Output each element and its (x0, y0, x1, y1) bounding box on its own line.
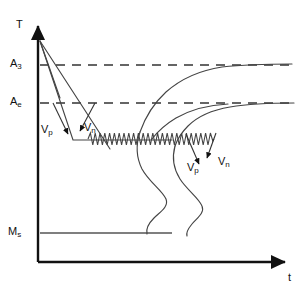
isothermal-hold-zigzag (88, 133, 214, 145)
ae-label-sub: e (17, 100, 21, 109)
a3-label-sub: 3 (17, 62, 21, 71)
ms-label-sub: s (17, 230, 21, 239)
vp-lower-sub: p (194, 166, 198, 175)
vp-upper-sub: p (48, 128, 52, 137)
ms-temperature-label: Ms (8, 226, 21, 237)
zigzag-polyline (88, 133, 214, 145)
c-curve-start-ae-crossing (152, 104, 228, 139)
c-curve-finish-lower-branch (173, 146, 202, 236)
ttt-c-curves (137, 64, 294, 236)
cooling-path-vp-continuation (40, 41, 60, 98)
ttt-diagram-canvas (0, 0, 306, 299)
a3-temperature-label: A3 (10, 58, 22, 69)
c-curve-start-upper-branch (140, 64, 292, 132)
vn-lower-sub: n (225, 160, 229, 169)
ttt-diagram-figure: T t A3 Ae Ms Vp Vn Vp Vn (0, 0, 306, 299)
vn-upper-label: Vn (84, 122, 96, 133)
ae-temperature-label: Ae (10, 96, 22, 107)
cooling-paths (40, 41, 172, 149)
vn-lower-label: Vn (218, 156, 230, 167)
x-axis-label: t (288, 272, 291, 283)
axes-group (38, 26, 285, 262)
y-axis-label: T (16, 19, 23, 30)
cooling-path-vp (40, 41, 172, 140)
vp-lower-label: Vp (187, 162, 199, 173)
vp-upper-label: Vp (41, 124, 53, 135)
c-curve-start-lower-branch (137, 132, 166, 234)
ms-label-main: M (8, 225, 17, 237)
vn-upper-sub: n (91, 126, 95, 135)
